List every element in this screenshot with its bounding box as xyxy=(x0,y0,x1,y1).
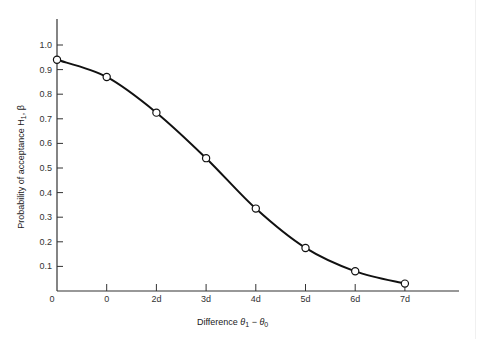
x-title-sub0: 0 xyxy=(264,321,268,328)
data-point-marker xyxy=(53,56,60,63)
y-tick-label: 0.8 xyxy=(39,89,52,99)
x-title-minus: − xyxy=(249,317,259,327)
y-axis-title: Probability of acceptance H1, β xyxy=(16,105,27,229)
y-tick-label: 0.5 xyxy=(39,163,52,173)
x-tick-label: 2d xyxy=(151,294,161,304)
x-title-main: Difference xyxy=(197,317,240,327)
y-ticks: 0.10.20.30.40.50.60.70.80.91.0 xyxy=(39,40,63,271)
scan-edge xyxy=(475,0,476,339)
x-tick-label: 6d xyxy=(350,294,360,304)
x-axis-title: Difference θ1 − θ0 xyxy=(197,317,268,328)
oc-curve-line xyxy=(57,60,405,284)
data-point-marker xyxy=(252,205,259,212)
x-tick-label: 4d xyxy=(251,294,261,304)
data-point-marker xyxy=(302,244,309,251)
data-point-marker xyxy=(352,268,359,275)
data-markers xyxy=(53,56,408,287)
x-tick-label: 3d xyxy=(201,294,211,304)
y-tick-label: 0.2 xyxy=(39,237,52,247)
x-ticks: 02d3d4d5d6d7d xyxy=(104,284,410,304)
oc-curve-chart: 0.10.20.30.40.50.60.70.80.91.0 02d3d4d5d… xyxy=(0,0,480,339)
origin-label: 0 xyxy=(49,294,54,304)
y-tick-label: 0.4 xyxy=(39,188,52,198)
y-tick-label: 0.6 xyxy=(39,138,52,148)
y-tick-label: 0.3 xyxy=(39,212,52,222)
axes xyxy=(57,19,459,291)
data-point-marker xyxy=(401,280,408,287)
y-tick-label: 0.1 xyxy=(39,261,52,271)
y-tick-label: 1.0 xyxy=(39,40,52,50)
y-title-tail: , β xyxy=(16,105,26,115)
x-tick-label: 0 xyxy=(104,294,109,304)
data-point-marker xyxy=(103,73,110,80)
x-tick-label: 5d xyxy=(300,294,310,304)
y-tick-label: 0.9 xyxy=(39,65,52,75)
data-point-marker xyxy=(153,109,160,116)
x-tick-label: 7d xyxy=(400,294,410,304)
data-point-marker xyxy=(203,155,210,162)
y-title-main: Probability of acceptance H xyxy=(16,119,26,229)
y-tick-label: 0.7 xyxy=(39,114,52,124)
